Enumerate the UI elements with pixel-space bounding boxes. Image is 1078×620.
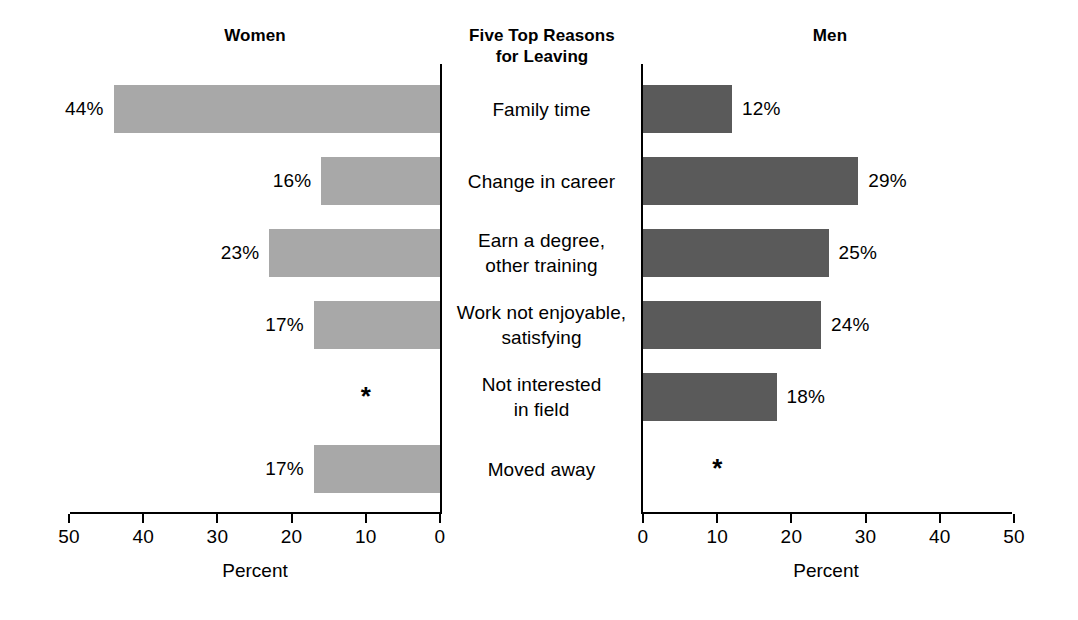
bar-value-label: 25% <box>839 229 939 277</box>
bar-value-label: 17% <box>204 301 304 349</box>
axis-title-men: Percent <box>706 560 946 582</box>
axis-men-tick <box>1013 514 1015 523</box>
axis-women-tick <box>142 514 144 523</box>
axis-women-tick-label: 30 <box>187 526 247 548</box>
bar-women <box>114 85 440 133</box>
column-header-men: Men <box>730 25 930 46</box>
bar-men <box>643 229 829 277</box>
axis-women-tick-label: 10 <box>336 526 396 548</box>
category-label: Not interestedin field <box>443 372 640 422</box>
suppressed-value-asterisk: * <box>705 445 729 493</box>
bar-women <box>314 301 440 349</box>
category-label-line: Work not enjoyable, <box>443 300 640 325</box>
bar-value-label: 24% <box>831 301 931 349</box>
category-label-line: in field <box>443 397 640 422</box>
category-label-line: Change in career <box>443 169 640 194</box>
category-label: Earn a degree,other training <box>443 228 640 278</box>
axis-women-tick-label: 40 <box>113 526 173 548</box>
axis-men-tick <box>865 514 867 523</box>
axis-women-tick <box>68 514 70 523</box>
bar-women <box>269 229 440 277</box>
bar-value-label: 17% <box>204 445 304 493</box>
axis-title-women: Percent <box>135 560 375 582</box>
category-label-line: satisfying <box>443 325 640 350</box>
axis-women-tick <box>365 514 367 523</box>
bar-men <box>643 301 821 349</box>
axis-scale-men <box>641 512 1012 514</box>
axis-men-tick <box>790 514 792 523</box>
axis-men-tick-label: 50 <box>984 526 1044 548</box>
category-label-line: other training <box>443 253 640 278</box>
axis-men-tick-label: 30 <box>836 526 896 548</box>
axis-women-tick-label: 0 <box>410 526 470 548</box>
axis-men-tick <box>939 514 941 523</box>
bar-women <box>321 157 440 205</box>
bar-value-label: 29% <box>868 157 968 205</box>
category-label: Change in career <box>443 169 640 194</box>
axis-women-tick-label: 20 <box>262 526 322 548</box>
category-label-line: Not interested <box>443 372 640 397</box>
category-label: Moved away <box>443 457 640 482</box>
column-header-women: Women <box>155 25 355 46</box>
bar-women <box>314 445 440 493</box>
category-label-line: Family time <box>443 97 640 122</box>
axis-women-tick <box>439 514 441 523</box>
category-label: Family time <box>443 97 640 122</box>
bar-value-label: 12% <box>742 85 842 133</box>
column-header-reasons: Five Top Reasons for Leaving <box>442 25 642 67</box>
axis-men-tick <box>716 514 718 523</box>
axis-men-tick-label: 0 <box>613 526 673 548</box>
axis-men-tick-label: 40 <box>910 526 970 548</box>
column-header-reasons-line2: for Leaving <box>442 46 642 67</box>
axis-men-tick <box>642 514 644 523</box>
bar-value-label: 23% <box>159 229 259 277</box>
bar-value-label: 18% <box>787 373 887 421</box>
axis-men-tick-label: 20 <box>761 526 821 548</box>
axis-women-tick <box>291 514 293 523</box>
category-label: Work not enjoyable,satisfying <box>443 300 640 350</box>
axis-women-tick <box>216 514 218 523</box>
bar-men <box>643 85 732 133</box>
bar-men <box>643 373 777 421</box>
category-label-line: Moved away <box>443 457 640 482</box>
axis-scale-women <box>70 512 441 514</box>
axis-men-tick-label: 10 <box>687 526 747 548</box>
suppressed-value-asterisk: * <box>354 373 378 421</box>
diverging-bar-chart: Women Five Top Reasons for Leaving Men P… <box>0 0 1078 620</box>
column-header-reasons-line1: Five Top Reasons <box>442 25 642 46</box>
bar-value-label: 16% <box>211 157 311 205</box>
axis-line-women <box>440 64 442 514</box>
category-label-line: Earn a degree, <box>443 228 640 253</box>
bar-value-label: 44% <box>4 85 104 133</box>
bar-men <box>643 157 858 205</box>
axis-women-tick-label: 50 <box>39 526 99 548</box>
